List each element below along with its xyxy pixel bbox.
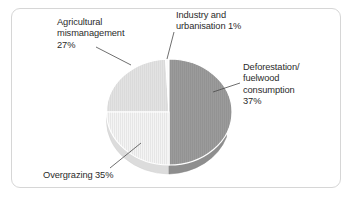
slice-overgrazing (107, 112, 170, 165)
pie-chart-figure: Agricultural mismanagement 27% Industry … (0, 0, 353, 201)
slice-label-deforestation: Deforestation/ fuelwood consumption 37% (243, 62, 299, 108)
leader-line-industry (167, 32, 174, 59)
slice-label-overgrazing: Overgrazing 35% (43, 170, 113, 181)
slice-agricultural-mismanagement (107, 59, 170, 112)
slice-deforestation (169, 59, 232, 165)
pie-top-faces (107, 59, 233, 165)
slice-label-agricultural-mismanagement: Agricultural mismanagement 27% (57, 17, 124, 51)
slice-label-industry-and-urbanisation: Industry and urbanisation 1% (176, 10, 241, 33)
